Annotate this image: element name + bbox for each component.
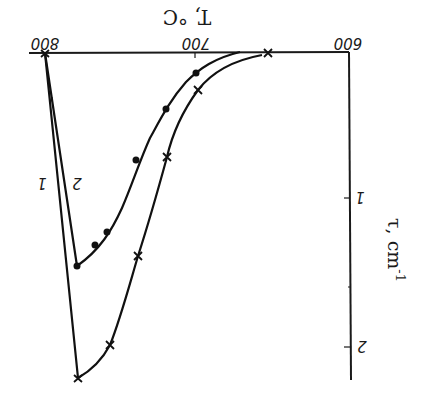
x-tick-label-700: 700 (182, 34, 211, 52)
series-crosses-line (45, 53, 262, 378)
x-tick-label-800: 800 (31, 34, 60, 52)
curve-label-1: 1 (37, 174, 47, 192)
dot-marker (104, 229, 111, 236)
dot-marker (133, 157, 140, 164)
cross-marker (194, 86, 202, 94)
y-axis-title: τ, cm-1 (384, 218, 408, 282)
y-tick-labels: 1 2 (355, 188, 367, 355)
dot-marker (193, 70, 200, 77)
dot-marker (92, 242, 99, 249)
curve-label-2: 2 (72, 174, 82, 192)
x-tick-label-600: 600 (334, 34, 363, 52)
x-axis-title: T, °C (163, 5, 211, 29)
series-dots (45, 52, 240, 270)
cross-markers (41, 49, 272, 382)
x-tick-labels: 800 700 600 (31, 34, 363, 52)
series-dots-line (45, 52, 240, 266)
y-tick-label-2: 2 (357, 337, 367, 355)
dot-marker (163, 106, 170, 113)
y-axis-title-text: τ, cm-1 (384, 218, 408, 282)
y-tick-label-1: 1 (355, 188, 365, 206)
series-crosses (41, 49, 272, 382)
chart-figure: 800 700 600 T, °C 1 2 τ, cm-1 1 2 (0, 0, 425, 399)
dot-marker (74, 263, 81, 270)
y-axis-line (349, 52, 351, 380)
